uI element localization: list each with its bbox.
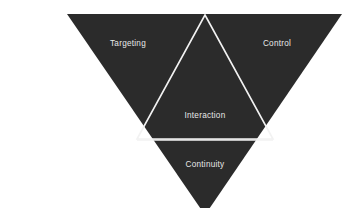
label-interaction: Interaction bbox=[185, 111, 226, 120]
diagram-container: Targeting Control Interaction Continuity bbox=[0, 0, 355, 208]
label-targeting: Targeting bbox=[110, 39, 146, 48]
label-continuity: Continuity bbox=[186, 160, 226, 169]
triangle-framework-diagram: Targeting Control Interaction Continuity bbox=[0, 0, 355, 208]
label-control: Control bbox=[263, 39, 291, 48]
